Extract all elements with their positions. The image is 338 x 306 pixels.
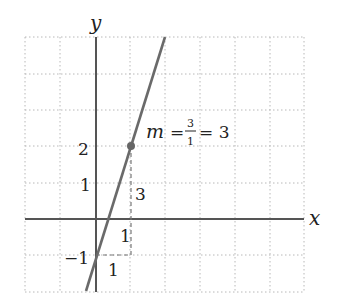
slope-chart: y x 2 1 −1 3 1 1 m = 3 1 = 3 bbox=[0, 0, 338, 306]
svg-text:3: 3 bbox=[187, 117, 194, 130]
run-label-inner: 1 bbox=[120, 226, 131, 246]
tick-label-2: 2 bbox=[78, 139, 89, 159]
svg-text:= 3: = 3 bbox=[199, 122, 229, 142]
x-axis-label: x bbox=[309, 206, 320, 230]
run-label-bottom: 1 bbox=[108, 260, 119, 280]
svg-text:1: 1 bbox=[187, 135, 194, 148]
svg-text:=: = bbox=[170, 122, 184, 142]
point-1-2 bbox=[127, 142, 135, 150]
svg-text:m: m bbox=[146, 120, 164, 142]
function-line bbox=[86, 37, 165, 291]
y-axis-label: y bbox=[89, 11, 102, 35]
rise-label: 3 bbox=[135, 184, 146, 204]
tick-label-1: 1 bbox=[80, 175, 91, 195]
tick-label-neg1: −1 bbox=[64, 248, 89, 268]
slope-annotation: m = 3 1 = 3 bbox=[146, 117, 229, 148]
